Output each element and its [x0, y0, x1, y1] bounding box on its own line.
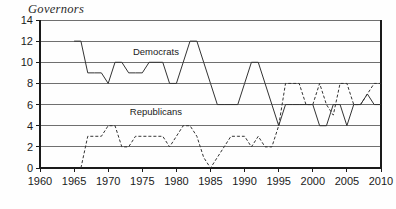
y-tick-label-14: 14 [21, 14, 33, 26]
chart-plot-area: 02468101214 1960196519701975198019851990… [0, 0, 396, 209]
y-tick-label-8: 8 [27, 77, 33, 89]
y-tick-label-4: 4 [27, 120, 33, 132]
y-tick-label-12: 12 [21, 35, 33, 47]
x-tick-label-1975: 1975 [130, 175, 154, 187]
axes-group [40, 20, 381, 168]
x-tick-label-1995: 1995 [266, 175, 290, 187]
x-tick-label-1970: 1970 [96, 175, 120, 187]
y-tick-label-0: 0 [27, 162, 33, 174]
axis-ticks-group [36, 20, 381, 172]
series-annotation-republicans: Republicans [130, 106, 183, 117]
x-tick-label-1985: 1985 [198, 175, 222, 187]
y-axis-labels: 02468101214 [21, 14, 33, 174]
x-tick-label-2005: 2005 [335, 175, 359, 187]
x-tick-label-2010: 2010 [369, 175, 393, 187]
x-axis-labels: 1960196519701975198019851990199520002005… [28, 175, 393, 187]
y-tick-label-6: 6 [27, 99, 33, 111]
series-annotation-democrats: Democrats [133, 46, 179, 57]
x-tick-label-2000: 2000 [301, 175, 325, 187]
x-tick-label-1990: 1990 [232, 175, 256, 187]
x-tick-label-1960: 1960 [28, 175, 52, 187]
x-tick-label-1965: 1965 [62, 175, 86, 187]
y-tick-label-10: 10 [21, 56, 33, 68]
series-annotations: DemocratsRepublicans [130, 46, 183, 117]
governors-chart: Governors 02468101214 196019651970197519… [0, 0, 396, 209]
x-tick-label-1980: 1980 [164, 175, 188, 187]
y-tick-label-2: 2 [27, 141, 33, 153]
